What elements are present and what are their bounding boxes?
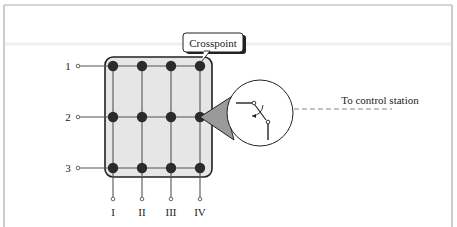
column-label-II: II — [138, 206, 146, 218]
row-label-2: 2 — [65, 111, 71, 123]
column-label-III: III — [166, 206, 177, 218]
row-labels: 1 2 3 — [65, 60, 71, 174]
column-label-I: I — [111, 206, 115, 218]
crosspoint-label: Crosspoint — [189, 37, 237, 49]
crossbar-switch-figure: Crosspoint To control station 1 2 3 I II… — [0, 0, 457, 227]
row-label-3: 3 — [65, 162, 71, 174]
row-terminals — [76, 64, 80, 170]
row-label-1: 1 — [65, 60, 71, 72]
column-labels: I II III IV — [111, 206, 206, 218]
control-station-label: To control station — [341, 94, 419, 106]
column-terminals — [111, 197, 202, 201]
column-label-IV: IV — [194, 206, 206, 218]
magnified-crosspoint-detail — [227, 80, 293, 146]
